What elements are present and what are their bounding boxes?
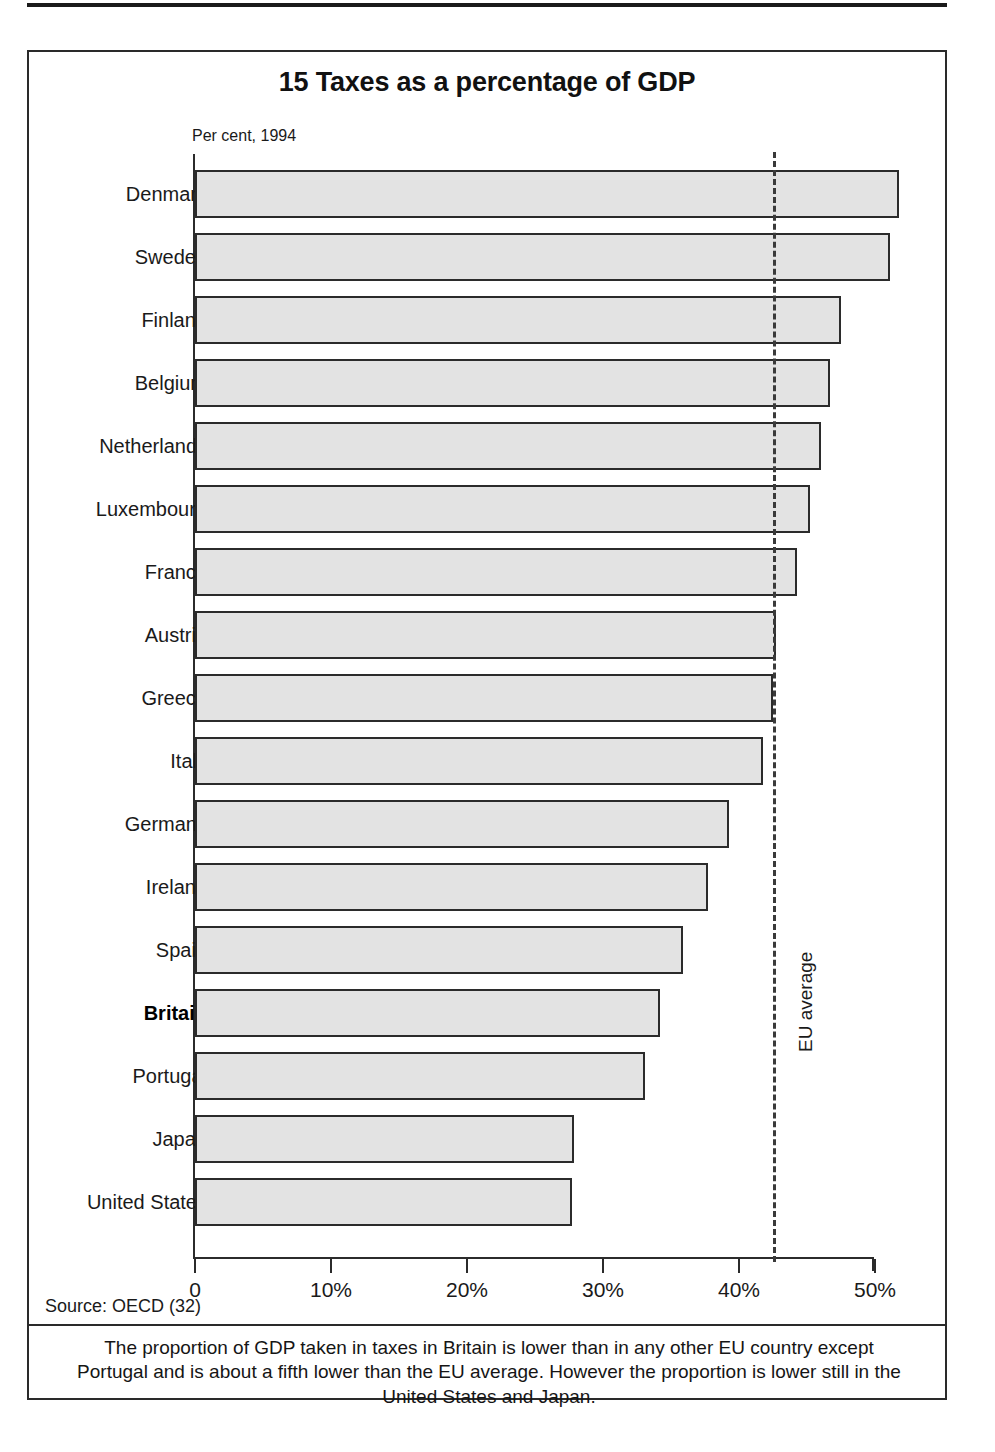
- axis-tick: [602, 1259, 604, 1273]
- bar-japan[interactable]: [195, 1115, 574, 1163]
- source-note: Source: OECD (32): [45, 1296, 201, 1317]
- eu-average-label: EU average: [795, 952, 817, 1052]
- bar-row[interactable]: Portugal: [29, 1052, 949, 1100]
- axis-tick-label: 20%: [446, 1278, 488, 1302]
- axis-units-note: Per cent, 1994: [192, 127, 296, 145]
- figure-caption: The proportion of GDP taken in taxes in …: [69, 1336, 909, 1409]
- axis-tick: [194, 1259, 196, 1273]
- bar-row[interactable]: Denmark: [29, 170, 949, 218]
- axis-tick-label: 30%: [582, 1278, 624, 1302]
- caption-divider: [29, 1324, 945, 1326]
- bar-austria[interactable]: [195, 611, 776, 659]
- bar-row[interactable]: Luxembourg: [29, 485, 949, 533]
- value-axis-line: [193, 1257, 874, 1259]
- chart-plot-area: Per cent, 1994 010%20%30%40%50% DenmarkS…: [29, 52, 949, 1402]
- bar-germany[interactable]: [195, 800, 729, 848]
- bar-sweden[interactable]: [195, 233, 890, 281]
- eu-average-line: [773, 152, 776, 1262]
- bar-united-states[interactable]: [195, 1178, 572, 1226]
- axis-tick: [330, 1259, 332, 1273]
- axis-tick: [874, 1259, 876, 1273]
- axis-tick: [738, 1259, 740, 1273]
- bar-spain[interactable]: [195, 926, 683, 974]
- bar-portugal[interactable]: [195, 1052, 645, 1100]
- bar-row[interactable]: Italy: [29, 737, 949, 785]
- bar-france[interactable]: [195, 548, 797, 596]
- bar-row[interactable]: Germany: [29, 800, 949, 848]
- page-top-rule: [27, 3, 947, 7]
- axis-tick-label: 40%: [718, 1278, 760, 1302]
- bar-netherlands[interactable]: [195, 422, 821, 470]
- axis-tick-label: 10%: [310, 1278, 352, 1302]
- category-label-united-states: United States: [87, 1191, 207, 1214]
- bar-row[interactable]: Greece: [29, 674, 949, 722]
- bar-belgium[interactable]: [195, 359, 830, 407]
- bar-row[interactable]: Sweden: [29, 233, 949, 281]
- bar-row[interactable]: Belgium: [29, 359, 949, 407]
- bar-row[interactable]: France: [29, 548, 949, 596]
- bar-row[interactable]: United States: [29, 1178, 949, 1226]
- bar-row[interactable]: Ireland: [29, 863, 949, 911]
- figure-frame: 15 Taxes as a percentage of GDP Per cent…: [27, 50, 947, 1400]
- bar-luxembourg[interactable]: [195, 485, 810, 533]
- bar-italy[interactable]: [195, 737, 763, 785]
- bar-denmark[interactable]: [195, 170, 899, 218]
- bar-row[interactable]: Netherlands: [29, 422, 949, 470]
- category-label-luxembourg: Luxembourg: [96, 498, 207, 521]
- bar-row[interactable]: Austria: [29, 611, 949, 659]
- bar-row[interactable]: Finland: [29, 296, 949, 344]
- bar-finland[interactable]: [195, 296, 841, 344]
- bar-ireland[interactable]: [195, 863, 708, 911]
- bar-britain[interactable]: [195, 989, 660, 1037]
- axis-tick-label: 50%: [854, 1278, 896, 1302]
- bar-greece[interactable]: [195, 674, 773, 722]
- bar-row[interactable]: Japan: [29, 1115, 949, 1163]
- category-label-netherlands: Netherlands: [99, 435, 207, 458]
- axis-tick: [466, 1259, 468, 1273]
